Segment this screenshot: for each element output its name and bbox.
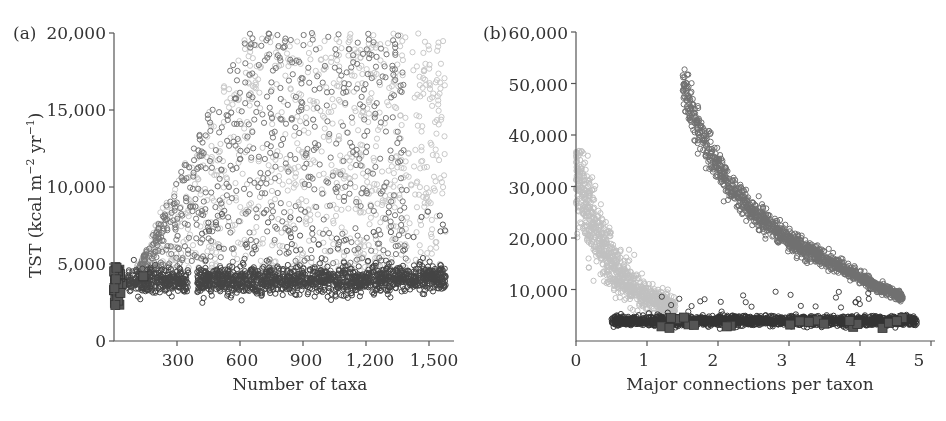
- xtick-label: 5: [889, 350, 946, 370]
- ytick-label: 20,000: [478, 229, 568, 249]
- panel-a-y-axis-label: TST (kcal m−2 yr−1): [24, 113, 45, 279]
- ytick-label: 10,000: [478, 281, 568, 301]
- xtick-label: 900: [276, 350, 336, 370]
- ytick-label: 30,000: [478, 178, 568, 198]
- xtick-label: 1: [614, 350, 674, 370]
- ytick-label: 0: [16, 331, 106, 351]
- xtick-label: 2: [683, 350, 743, 370]
- ytick-label: 40,000: [478, 126, 568, 146]
- xtick-label: 1,500: [404, 350, 464, 370]
- xtick-label: 300: [148, 350, 208, 370]
- ytick-label: 50,000: [478, 75, 568, 95]
- xtick-label: 1,200: [340, 350, 400, 370]
- xtick-label: 4: [821, 350, 881, 370]
- xtick-label: 0: [546, 350, 606, 370]
- xtick-label: 3: [752, 350, 812, 370]
- xtick-label: 600: [212, 350, 272, 370]
- panel-b-x-axis-label: Major connections per taxon: [600, 374, 900, 394]
- panel-a-x-axis-label: Number of taxa: [180, 374, 420, 394]
- ytick-label: 20,000: [16, 23, 106, 43]
- ytick-label: 60,000: [478, 23, 568, 43]
